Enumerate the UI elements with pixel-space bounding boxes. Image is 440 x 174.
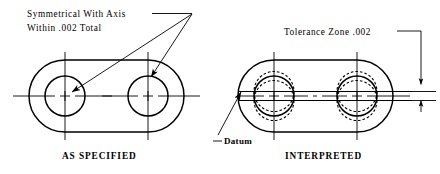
symmetry-note-line1: Symmetrical With Axis (27, 9, 126, 19)
datum-label: Datum (224, 136, 252, 146)
right-figure-group: Tolerance Zone .002 (213, 27, 436, 161)
left-figure-group: Symmetrical With Axis Within .002 Total (13, 9, 200, 161)
tolerance-zone-note: Tolerance Zone .002 (284, 27, 371, 37)
tolerance-zone-leader (397, 31, 436, 112)
right-hole-center-mark (143, 91, 153, 101)
left-caption: AS SPECIFIED (62, 151, 137, 161)
interpreted-left-hole-center-mark (269, 91, 279, 101)
drawing-canvas: Symmetrical With Axis Within .002 Total (0, 0, 440, 174)
right-caption: INTERPRETED (285, 151, 362, 161)
interpreted-right-hole-center-mark (352, 91, 362, 101)
datum-leader (213, 92, 241, 141)
symmetry-note-line2: Within .002 Total (27, 23, 102, 33)
technical-drawing-figure: Symmetrical With Axis Within .002 Total (0, 0, 440, 174)
left-hole-center-mark (60, 91, 70, 101)
